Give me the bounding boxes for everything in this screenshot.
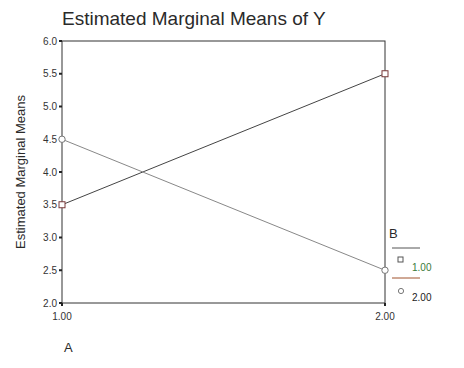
series-line-2 — [62, 139, 385, 270]
y-tick-label: 2.5 — [43, 265, 57, 276]
square-marker — [382, 71, 388, 77]
legend-square-icon — [398, 257, 403, 262]
legend-label-series-1: 1.00 — [412, 262, 431, 273]
legend-label-series-2: 2.00 — [412, 292, 431, 303]
y-tick-label: 6.0 — [43, 36, 57, 47]
x-tick-label: 1.00 — [52, 311, 72, 322]
y-tick-label: 5.5 — [43, 68, 57, 79]
circle-marker — [382, 267, 388, 273]
y-tick-label: 3.0 — [43, 232, 57, 243]
y-tick-label: 2.0 — [43, 298, 57, 309]
circle-marker — [59, 136, 65, 142]
series-line-1 — [62, 74, 385, 205]
y-tick-label: 3.5 — [43, 199, 57, 210]
y-tick-label: 4.5 — [43, 134, 57, 145]
square-marker — [59, 202, 65, 208]
legend-circle-icon — [398, 288, 403, 293]
y-tick-label: 4.0 — [43, 167, 57, 178]
plot-frame — [62, 41, 385, 303]
y-tick-label: 5.0 — [43, 101, 57, 112]
plot-area: 2.02.53.03.54.04.55.05.56.01.002.00 — [0, 0, 464, 368]
legend-title: B — [389, 226, 398, 241]
x-tick-label: 2.00 — [375, 311, 395, 322]
